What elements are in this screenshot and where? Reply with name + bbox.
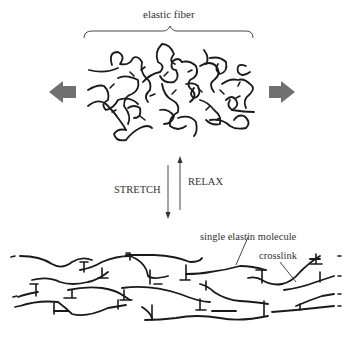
relax-label: RELAX xyxy=(188,176,223,187)
single-elastin-molecule-label: single elastin molecule xyxy=(200,231,296,242)
stretch-label: STRETCH xyxy=(114,184,161,195)
right-arrow-icon xyxy=(269,81,295,103)
elastin-diagram xyxy=(0,0,357,343)
relaxed-fiber-network xyxy=(88,44,254,140)
relax-arrow-icon xyxy=(178,156,183,210)
crosslink-label: crosslink xyxy=(259,250,297,261)
stretch-arrow-icon xyxy=(166,165,171,219)
elastic-fiber-label: elastic fiber xyxy=(143,8,195,20)
left-arrow-icon xyxy=(49,81,76,103)
fiber-brace xyxy=(84,26,253,38)
